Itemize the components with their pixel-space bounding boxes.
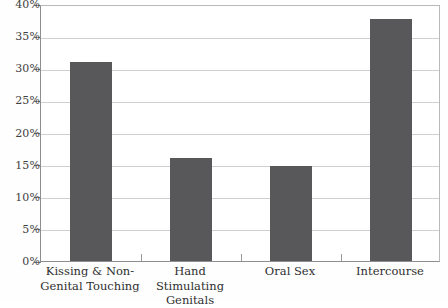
y-axis-label: 25% [6, 95, 40, 106]
y-axis-label: 10% [6, 192, 40, 203]
bar [70, 62, 112, 261]
y-axis-label: 0% [6, 256, 40, 267]
plot-area [40, 5, 440, 262]
y-axis-label: 30% [6, 63, 40, 74]
category-separator [141, 254, 142, 261]
x-axis-category-label: Intercourse [340, 264, 440, 279]
y-axis-label: 20% [6, 128, 40, 139]
y-axis: 0%5%10%15%20%25%30%35%40% [0, 0, 40, 302]
bar [170, 158, 212, 261]
y-axis-label: 15% [6, 160, 40, 171]
y-axis-label: 35% [6, 31, 40, 42]
y-axis-label: 5% [6, 224, 40, 235]
category-separator [341, 254, 342, 261]
bar [270, 166, 312, 261]
category-separator [241, 254, 242, 261]
bar [370, 19, 412, 261]
x-axis-category-label: Oral Sex [240, 264, 340, 279]
x-axis-category-label: Kissing & Non- Genital Touching [40, 264, 140, 293]
figure-caption [40, 294, 440, 302]
y-axis-label: 40% [6, 0, 40, 10]
